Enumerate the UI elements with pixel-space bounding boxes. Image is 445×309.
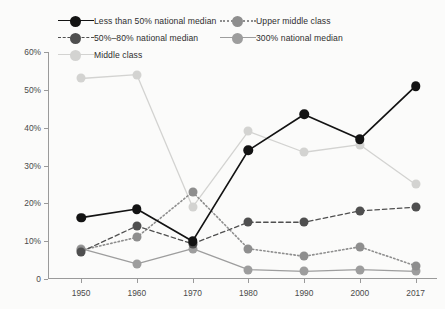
legend-item[interactable]: Less than 50% national median	[58, 13, 220, 28]
data-point[interactable]	[244, 218, 253, 227]
data-point[interactable]	[76, 213, 86, 223]
y-tick-label: 10%	[24, 236, 48, 246]
data-point[interactable]	[188, 187, 197, 196]
legend-swatch-icon	[58, 14, 94, 28]
data-point[interactable]	[244, 127, 253, 136]
legend-item[interactable]: 300% national median	[220, 30, 388, 45]
data-point[interactable]	[300, 252, 309, 261]
data-point[interactable]	[411, 203, 420, 212]
data-point[interactable]	[132, 259, 141, 268]
legend-label: 300% national median	[256, 33, 343, 43]
data-point[interactable]	[77, 74, 86, 83]
x-tick-label: 1950	[72, 279, 91, 298]
plot-area: 010%20%30%40%50%60% 19501960197019801990…	[48, 52, 437, 279]
x-tick-label: 1960	[127, 279, 146, 298]
series-line	[81, 75, 416, 207]
data-point[interactable]	[188, 203, 197, 212]
data-point[interactable]	[300, 148, 309, 157]
y-tick-label: 50%	[24, 85, 48, 95]
legend-swatch-icon	[58, 31, 94, 45]
y-tick-label: 40%	[24, 123, 48, 133]
legend-item[interactable]: 50%–80% national median	[58, 30, 220, 45]
data-point[interactable]	[411, 180, 420, 189]
x-tick-label: 2017	[406, 279, 425, 298]
data-point[interactable]	[355, 265, 364, 274]
data-point[interactable]	[132, 70, 141, 79]
series-lines	[48, 52, 437, 279]
legend-label: 50%–80% national median	[94, 33, 198, 43]
data-point[interactable]	[244, 265, 253, 274]
chart-container: Less than 50% national medianUpper middl…	[0, 0, 445, 309]
legend-item[interactable]: Upper middle class	[220, 13, 388, 28]
data-point[interactable]	[355, 134, 365, 144]
data-point[interactable]	[188, 236, 198, 246]
data-point[interactable]	[299, 110, 309, 120]
legend-swatch-icon	[220, 31, 256, 45]
y-tick-label: 0	[36, 274, 48, 284]
x-tick-label: 1970	[183, 279, 202, 298]
data-point[interactable]	[77, 247, 86, 256]
legend-label: Less than 50% national median	[94, 16, 216, 26]
data-point[interactable]	[244, 244, 253, 253]
data-point[interactable]	[355, 206, 364, 215]
data-point[interactable]	[132, 204, 142, 214]
data-point[interactable]	[132, 233, 141, 242]
data-point[interactable]	[355, 242, 364, 251]
y-tick-label: 60%	[24, 47, 48, 57]
data-point[interactable]	[411, 81, 421, 91]
data-point[interactable]	[244, 146, 254, 156]
legend-swatch-icon	[220, 14, 256, 28]
x-tick-label: 2000	[351, 279, 370, 298]
x-tick-label: 1990	[295, 279, 314, 298]
x-tick-label: 1980	[239, 279, 258, 298]
data-point[interactable]	[411, 261, 420, 270]
data-point[interactable]	[300, 218, 309, 227]
data-point[interactable]	[300, 267, 309, 276]
y-tick-label: 20%	[24, 198, 48, 208]
data-point[interactable]	[132, 222, 141, 231]
legend-label: Upper middle class	[256, 16, 331, 26]
y-tick-label: 30%	[24, 161, 48, 171]
